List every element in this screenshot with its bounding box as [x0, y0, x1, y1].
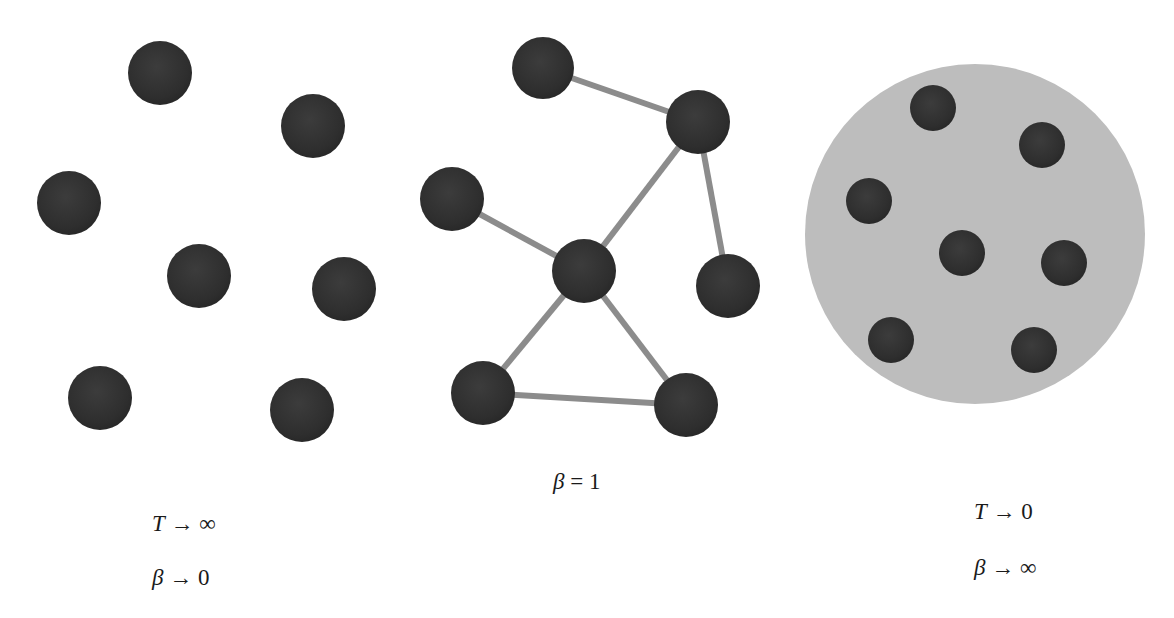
graph-node — [1011, 327, 1057, 373]
graph-node — [270, 378, 334, 442]
graph-node — [1041, 240, 1087, 286]
graph-node — [420, 167, 484, 231]
graph-node — [939, 230, 985, 276]
graph-node — [281, 94, 345, 158]
graph-node — [910, 85, 956, 131]
graph-node — [451, 361, 515, 425]
graph-node — [552, 239, 616, 303]
graph-node — [868, 317, 914, 363]
graph-node — [312, 257, 376, 321]
graph-node — [512, 37, 574, 99]
panel-disordered — [37, 41, 376, 442]
graph-node — [167, 244, 231, 308]
panel-condensed — [805, 64, 1145, 404]
formula-label: β → ∞ — [974, 556, 1036, 579]
graph-node — [666, 90, 730, 154]
graph-node — [128, 41, 192, 105]
panel-network — [420, 37, 760, 437]
formula-label: T → 0 — [974, 500, 1033, 523]
formula-label: β → 0 — [152, 566, 209, 589]
graph-node — [68, 366, 132, 430]
cluster-circle — [805, 64, 1145, 404]
graph-node — [846, 178, 892, 224]
formula-label: T → ∞ — [152, 512, 216, 535]
graph-node — [696, 254, 760, 318]
graph-node — [1019, 122, 1065, 168]
graph-node — [654, 373, 718, 437]
formula-label: β = 1 — [553, 470, 600, 493]
graph-node — [37, 171, 101, 235]
